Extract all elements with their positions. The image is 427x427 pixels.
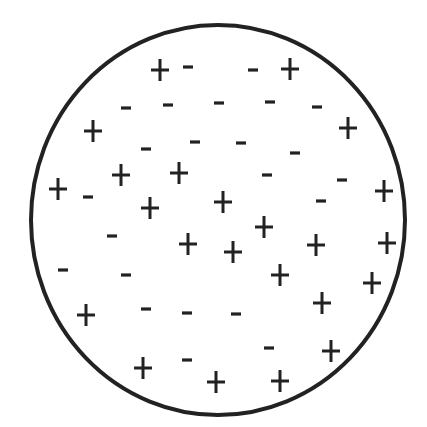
plus-charge-icon	[214, 191, 232, 213]
plus-charge-icon	[255, 216, 273, 238]
plus-charge-icon	[307, 234, 325, 256]
plus-charge-icon	[271, 370, 289, 392]
plus-charge-icon	[179, 233, 197, 255]
charge-diagram	[0, 0, 427, 427]
plus-charge-icon	[49, 178, 67, 200]
charge-symbols	[49, 58, 396, 393]
boundary-circle	[31, 25, 405, 415]
plus-charge-icon	[375, 180, 393, 202]
plus-charge-icon	[281, 58, 299, 80]
plus-charge-icon	[141, 197, 159, 219]
plus-charge-icon	[363, 272, 381, 294]
plus-charge-icon	[322, 340, 340, 362]
plus-charge-icon	[313, 292, 331, 314]
plus-charge-icon	[170, 162, 188, 184]
plus-charge-icon	[77, 304, 95, 326]
plus-charge-icon	[134, 357, 152, 379]
plus-charge-icon	[339, 117, 357, 139]
plus-charge-icon	[112, 164, 130, 186]
plus-charge-icon	[151, 59, 169, 81]
plus-charge-icon	[207, 371, 225, 393]
plus-charge-icon	[378, 232, 396, 254]
plus-charge-icon	[271, 264, 289, 286]
plus-charge-icon	[84, 120, 102, 142]
plus-charge-icon	[224, 241, 242, 263]
